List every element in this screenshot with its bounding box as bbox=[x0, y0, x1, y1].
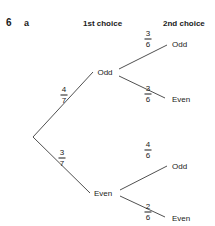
leaf-even-even: Even bbox=[172, 214, 190, 223]
branch-odd-to-odd bbox=[119, 45, 167, 69]
fraction-denominator: 7 bbox=[59, 159, 65, 168]
fraction-numerator: 3 bbox=[59, 149, 65, 158]
branch-even-to-odd bbox=[120, 166, 167, 190]
probability-root-to-odd: 4 7 bbox=[61, 86, 68, 105]
tree-diagram-page: 6 a 1st choice 2nd choice Odd Even Odd E… bbox=[0, 0, 215, 226]
probability-even-to-even: 2 6 bbox=[145, 203, 152, 222]
fraction-numerator: 3 bbox=[145, 30, 151, 39]
probability-root-to-even: 3 7 bbox=[59, 149, 66, 168]
fraction-numerator: 2 bbox=[145, 203, 151, 212]
leaf-odd-even: Even bbox=[172, 95, 190, 104]
fraction-numerator: 4 bbox=[145, 141, 151, 150]
fraction-denominator: 7 bbox=[61, 96, 67, 105]
branch-even-to-even bbox=[120, 196, 165, 217]
fraction-numerator: 3 bbox=[145, 85, 151, 94]
fraction-denominator: 6 bbox=[145, 40, 151, 49]
branch-odd-to-even bbox=[119, 76, 165, 98]
fraction-denominator: 6 bbox=[145, 213, 151, 222]
leaf-odd-odd: Odd bbox=[172, 40, 187, 49]
fraction-denominator: 6 bbox=[145, 151, 151, 160]
node-first-choice-odd: Odd bbox=[97, 68, 112, 77]
fraction-numerator: 4 bbox=[61, 86, 67, 95]
probability-even-to-odd: 4 6 bbox=[145, 141, 152, 160]
node-first-choice-even: Even bbox=[94, 189, 112, 198]
branch-root-to-odd bbox=[33, 72, 93, 137]
fraction-denominator: 6 bbox=[145, 95, 151, 104]
probability-odd-to-odd: 3 6 bbox=[145, 30, 152, 49]
probability-odd-to-even: 3 6 bbox=[145, 85, 152, 104]
leaf-even-odd: Odd bbox=[172, 162, 187, 171]
